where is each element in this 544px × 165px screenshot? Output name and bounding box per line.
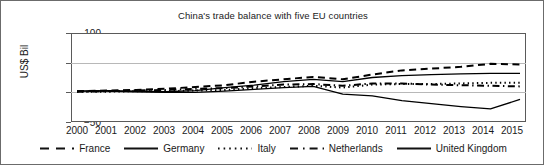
legend-label-france: France xyxy=(79,143,110,154)
chart-figure: China's trade balance with five EU count… xyxy=(0,0,544,165)
dashdot-line-swatch xyxy=(289,144,325,153)
legend-item-united-kingdom[interactable]: United Kingdom xyxy=(396,143,507,154)
legend-label-italy: Italy xyxy=(257,143,275,154)
legend-item-italy[interactable]: Italy xyxy=(217,143,275,154)
series-line-germany xyxy=(77,73,520,91)
legend-item-germany[interactable]: Germany xyxy=(123,143,204,154)
solid-line-swatch xyxy=(123,144,159,153)
chart-title: China's trade balance with five EU count… xyxy=(1,10,544,21)
dotted-line-swatch xyxy=(217,144,253,153)
legend-label-germany: Germany xyxy=(163,143,204,154)
solid-line-swatch xyxy=(396,144,432,153)
x-tick-label-2015: 2015 xyxy=(492,125,532,136)
chart-legend: France Germany Italy Netherlands United … xyxy=(1,143,544,154)
legend-item-netherlands[interactable]: Netherlands xyxy=(289,143,383,154)
legend-label-united-kingdom: United Kingdom xyxy=(436,143,507,154)
plot-area xyxy=(71,33,526,122)
legend-label-netherlands: Netherlands xyxy=(329,143,383,154)
y-axis-label: US$ Bil xyxy=(19,32,30,92)
dashed-line-swatch xyxy=(39,144,75,153)
y-tick-mark-minus50 xyxy=(66,122,71,123)
series-lines xyxy=(71,33,526,122)
legend-item-france[interactable]: France xyxy=(39,143,110,154)
